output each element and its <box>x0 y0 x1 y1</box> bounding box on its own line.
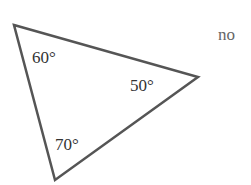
angle-label-right: 50° <box>130 77 154 94</box>
angle-label-top-left: 60° <box>32 49 56 66</box>
answer-text: no <box>218 26 235 43</box>
angle-label-bottom: 70° <box>55 136 79 153</box>
triangle-diagram <box>0 0 251 185</box>
